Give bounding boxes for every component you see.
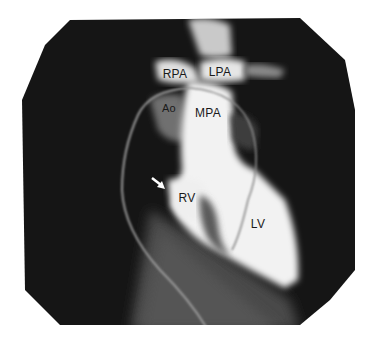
label-lpa: LPA [209, 65, 232, 79]
label-mpa: MPA [195, 106, 221, 120]
label-lv: LV [251, 217, 265, 231]
angiogram-image [0, 0, 368, 346]
label-ao: Ao [162, 102, 176, 114]
label-rpa: RPA [163, 67, 188, 81]
angiogram-figure: RPA LPA Ao MPA RV LV [0, 0, 368, 346]
label-rv: RV [178, 191, 195, 205]
